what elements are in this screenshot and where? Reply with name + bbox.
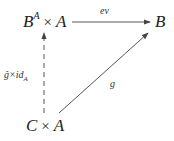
node-exponent: A — [33, 10, 39, 21]
node-C-times-A: C×A — [26, 117, 64, 134]
times-symbol: × — [41, 118, 49, 134]
arrow-g — [59, 33, 148, 113]
node-B: B — [155, 13, 165, 30]
label-ev: ev — [100, 6, 109, 16]
node-A: A — [54, 116, 64, 135]
node-B-label: B — [155, 12, 165, 31]
label-main: ĝ×id — [4, 69, 24, 80]
node-exponential-product: BA×A — [23, 13, 66, 30]
node-base: B — [23, 12, 33, 31]
times-symbol: × — [44, 14, 52, 30]
node-C: C — [26, 116, 37, 135]
label-g: g — [110, 79, 115, 89]
label-g-hat-times-id: ĝ×idA — [4, 70, 28, 83]
label-subscript: A — [24, 75, 28, 83]
node-factor: A — [56, 12, 66, 31]
